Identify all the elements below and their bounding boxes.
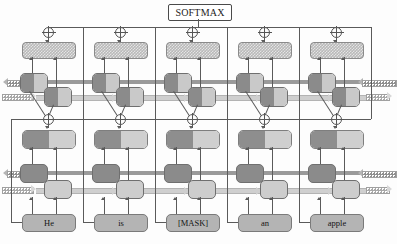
layer1-forward-to-hidden-wire xyxy=(344,147,345,183)
output-skip-bus-top xyxy=(336,27,371,28)
embedding-to-backward-cell-arrowhead xyxy=(317,197,321,200)
diagram-canvas: SOFTMAX Heis[MASK]anapple xyxy=(0,0,397,244)
input-token-box[interactable]: apple xyxy=(310,214,364,232)
layer2-forward-to-output-arrowhead xyxy=(341,57,345,60)
concat-to-hidden-box-arrowhead xyxy=(333,126,337,129)
embedding-skip-bus-up xyxy=(299,119,300,222)
layer1-forward-cell xyxy=(332,180,360,199)
embedding-skip-bus-top xyxy=(299,119,336,120)
timestep-column: apple xyxy=(0,0,397,244)
layer2-forward-cell xyxy=(332,87,360,107)
layer2-backward-to-output-arrowhead xyxy=(317,57,321,60)
output-skip-bus-down xyxy=(371,27,372,119)
layer1-forward-to-hidden-arrowhead xyxy=(341,147,345,150)
embedding-to-forward-cell-arrowhead xyxy=(341,197,345,200)
layer1-backward-cell xyxy=(308,164,336,183)
softmax-bus-segment xyxy=(198,27,336,28)
layer1-backward-to-hidden-arrowhead xyxy=(317,147,321,150)
